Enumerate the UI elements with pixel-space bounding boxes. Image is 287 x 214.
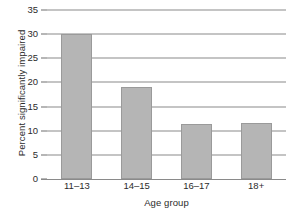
bar-chart: Percent significantly impaired 051015202… [0,0,287,214]
x-axis-tick-label: 14–15 [107,181,167,191]
gridline [47,10,286,11]
y-axis-tick-label: 5 [18,150,38,160]
x-axis-tick-labels: 11–1314–1516–1718+ [47,181,286,195]
y-axis-tick-labels: 05101520253035 [16,0,38,214]
x-axis-title: Age group [47,197,286,208]
bar [121,87,152,179]
x-axis-tick-label: 16–17 [167,181,227,191]
y-axis-tick-label: 35 [18,5,38,15]
y-axis-tick-label: 0 [18,174,38,184]
x-axis-tick-label: 18+ [226,181,286,191]
x-axis-tick-label: 11–13 [47,181,107,191]
y-axis-tick-label: 30 [18,29,38,39]
y-axis-tick-label: 15 [18,102,38,112]
y-axis-tick-label: 25 [18,54,38,64]
y-axis-tick-label: 20 [18,78,38,88]
bar [181,124,212,179]
bar [61,34,92,179]
bar [241,123,272,179]
y-axis-tick-label: 10 [18,126,38,136]
